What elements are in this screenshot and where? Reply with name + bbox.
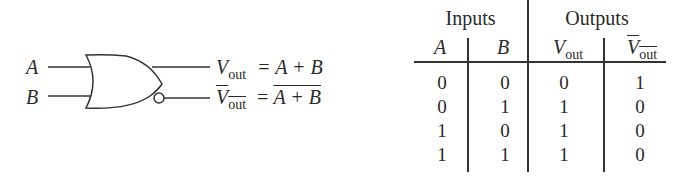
vout-symbol: V xyxy=(216,56,228,78)
group-divider xyxy=(527,0,529,172)
vout-subscript: out xyxy=(228,67,246,82)
complement-output-equation: Vout = A + B xyxy=(216,87,321,110)
vout-bar-symbol: V xyxy=(216,86,228,108)
column-header-vout: Vout xyxy=(538,37,598,60)
vout-bar-subscript: out xyxy=(228,97,246,112)
column-header-vout-bar: Vout xyxy=(612,37,672,60)
output-equation: Vout = A + B xyxy=(216,57,323,80)
outputs-group-header: Outputs xyxy=(527,8,667,28)
or-gate-body xyxy=(86,55,162,109)
vout-equation: = A + B xyxy=(257,56,323,78)
input-column-divider xyxy=(467,38,469,172)
column-header-a: A xyxy=(420,37,460,57)
header-rule xyxy=(414,61,666,63)
inputs-group-header: Inputs xyxy=(414,8,527,28)
inversion-bubble-icon xyxy=(154,93,164,103)
column-header-b: B xyxy=(483,37,523,57)
output-column-divider xyxy=(603,38,605,172)
vout-bar-equation: A + B xyxy=(273,86,321,108)
nor-or-gate-symbol xyxy=(0,0,230,180)
